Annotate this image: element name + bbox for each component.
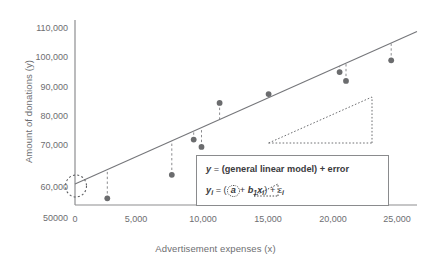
y-tick-label: 90,000	[8, 82, 68, 92]
slope-triangle	[269, 97, 372, 143]
equation-lhs-y: y	[206, 164, 211, 174]
slope-triangle-mini-icon	[252, 182, 284, 198]
equation-lhs-yi-sub: i	[211, 189, 213, 196]
slope-triangle-hyp	[269, 97, 372, 143]
data-point	[191, 137, 197, 143]
data-point	[169, 172, 175, 178]
data-point	[104, 195, 110, 201]
y-tick-label: 70,000	[8, 140, 68, 150]
data-point	[388, 57, 394, 63]
y-tick-label: 50000	[8, 213, 68, 223]
intercept-symbol: a	[231, 185, 236, 195]
intercept-term-a: a	[227, 185, 240, 197]
scatter-plot-figure: 110,000 100,000 90,000 80,000 70,000 60,…	[0, 0, 431, 268]
data-point	[217, 100, 223, 106]
x-tick-label: 25,000	[375, 214, 419, 224]
equation-equals-2: =	[216, 185, 221, 195]
data-point	[266, 91, 272, 97]
data-point	[337, 69, 343, 75]
x-axis-title: Advertisement expenses (x)	[0, 243, 431, 254]
data-point	[343, 78, 349, 84]
x-tick-label: 10,000	[181, 214, 225, 224]
x-tick-label: 15,000	[246, 214, 290, 224]
y-axis-title: Amount of donations (y)	[23, 22, 34, 202]
y-tick-label: 60,000	[8, 182, 68, 192]
equation-line-1: y = (general linear model) + error	[206, 164, 349, 174]
x-tick-label: 20,000	[311, 214, 355, 224]
y-tick-label: 100,000	[8, 52, 68, 62]
equation-plus: +	[240, 185, 245, 195]
intercept-highlight-circle	[66, 175, 87, 197]
plot-canvas	[0, 0, 431, 268]
equation-equals: =	[214, 164, 219, 174]
data-point	[199, 144, 205, 150]
equation-rhs-text: (general linear model) + error	[222, 164, 349, 174]
y-tick-label: 80,000	[8, 111, 68, 121]
equation-callout-box: y = (general linear model) + error yi = …	[196, 155, 389, 206]
x-tick-label: 5,000	[116, 214, 156, 224]
y-tick-label: 110,000	[8, 23, 68, 33]
x-tick-label: 0	[61, 214, 89, 224]
